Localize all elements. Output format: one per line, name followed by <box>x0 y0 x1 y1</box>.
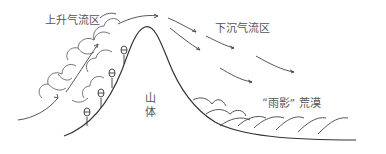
downdraft-arrow <box>256 56 294 72</box>
tree-icon <box>84 108 90 126</box>
updraft-arrow <box>18 98 58 120</box>
tree-icon <box>109 69 115 88</box>
dune-icon <box>276 117 304 130</box>
mountain-profile <box>64 27 356 140</box>
label-mountain-1: 山 <box>144 92 156 106</box>
dune-icon <box>220 118 250 126</box>
orographic-clouds <box>39 19 120 103</box>
dune-icon <box>318 118 348 134</box>
tree-icon <box>121 46 127 64</box>
updraft-arrows <box>18 13 158 120</box>
updraft-arrow <box>66 44 98 92</box>
dune-icon <box>206 110 246 117</box>
dune-icon <box>193 98 226 106</box>
downdraft-arrow <box>206 36 234 48</box>
rain-shadow-diagram: 上升气流区 下沉气流区 山 体 “雨影” 荒漠 <box>0 0 386 154</box>
label-downdraft-zone: 下沉气流区 <box>215 19 270 35</box>
label-updraft-zone: 上升气流区 <box>45 11 100 27</box>
updraft-arrow <box>100 13 116 18</box>
label-rain-shadow-desert: “雨影” 荒漠 <box>262 94 321 110</box>
arrow-head-icon <box>230 46 234 49</box>
updraft-arrow <box>118 15 158 24</box>
downdraft-arrow <box>220 68 252 82</box>
arrow-head-icon <box>54 94 58 98</box>
label-mountain-2: 体 <box>144 106 156 120</box>
